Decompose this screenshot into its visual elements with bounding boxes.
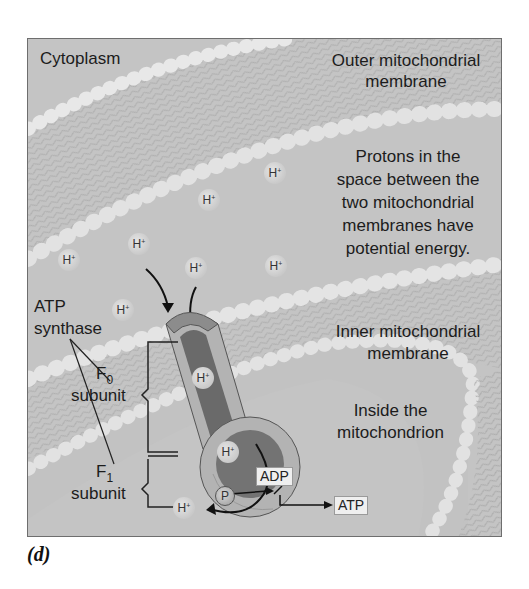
atp-label: ATP xyxy=(334,496,368,515)
outer-membrane-label-line1: Outer mitochondrial xyxy=(316,51,496,71)
proton-icon: H+ xyxy=(58,249,80,271)
f0-subunit-word: subunit xyxy=(71,386,126,406)
f1-subscript: 1 xyxy=(106,471,113,485)
f0-subunit-symbol: F0 xyxy=(96,364,113,385)
outer-membrane-label-line2: membrane xyxy=(316,72,496,92)
f1-subunit-symbol: F1 xyxy=(96,462,113,483)
proton-icon: H+ xyxy=(198,189,220,211)
phosphate-icon: P xyxy=(215,486,235,506)
protons-text-line5: potential energy. xyxy=(318,239,498,259)
panel-label: (d) xyxy=(27,543,50,566)
f0-letter: F xyxy=(96,364,106,383)
cytoplasm-label: Cytoplasm xyxy=(40,49,120,69)
protons-text-line4: membranes have xyxy=(318,216,498,236)
proton-icon-in-f1: H+ xyxy=(217,441,239,463)
atp-synthase-label-line1: ATP xyxy=(34,297,66,317)
inner-membrane-label-line2: membrane xyxy=(318,344,498,364)
proton-icon-in-channel: H+ xyxy=(192,367,214,389)
proton-icon-released: H+ xyxy=(173,497,195,519)
inner-membrane-label-line1: Inner mitochondrial xyxy=(318,322,498,342)
protons-text-line2: space between the xyxy=(318,170,498,190)
adp-label: ADP xyxy=(256,467,293,486)
inside-mitochondrion-label-line1: Inside the xyxy=(318,401,463,421)
proton-icon: H+ xyxy=(185,257,207,279)
protons-text-line1: Protons in the xyxy=(318,147,498,167)
atp-synthase-label-line2: synthase xyxy=(34,319,102,339)
proton-icon: H+ xyxy=(264,162,286,184)
f0-subscript: 0 xyxy=(106,373,113,387)
f1-subunit-word: subunit xyxy=(71,484,126,504)
proton-icon: H+ xyxy=(265,255,287,277)
inside-mitochondrion-label-line2: mitochondrion xyxy=(318,423,463,443)
atp-synthase-diagram: Cytoplasm Outer mitochondrial membrane P… xyxy=(27,38,502,537)
protons-text-line3: two mitochondrial xyxy=(318,193,498,213)
proton-icon: H+ xyxy=(128,233,150,255)
proton-icon: H+ xyxy=(112,299,134,321)
f1-letter: F xyxy=(96,462,106,481)
